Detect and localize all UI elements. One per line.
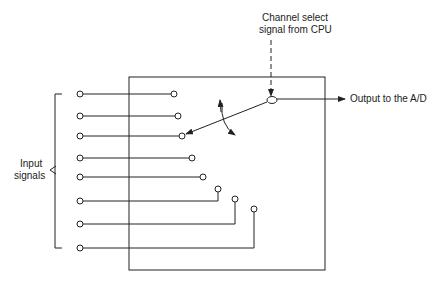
input-bracket	[55, 94, 62, 248]
channel-select-label-2: signal from CPU	[259, 24, 332, 36]
input-signals-label-2: signals	[14, 170, 45, 182]
multiplexer-diagram	[0, 0, 447, 284]
output-label: Output to the A/D	[350, 93, 427, 105]
multiplexer-box	[129, 77, 325, 270]
channel-select-label-1: Channel select	[262, 12, 328, 24]
input-signals-label-1: Input	[20, 158, 42, 170]
